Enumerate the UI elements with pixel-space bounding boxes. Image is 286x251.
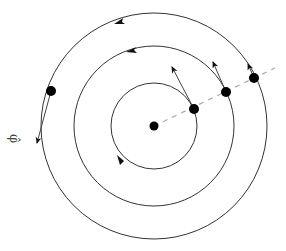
phi-hat-label: φ̂ (7, 134, 22, 143)
point-middle (221, 87, 231, 97)
point-outer (249, 73, 259, 83)
circles-diagram (0, 0, 286, 251)
inner-direction-arrow-icon (117, 155, 124, 165)
point-inner (189, 104, 199, 114)
point-left (46, 86, 56, 96)
center-point (150, 122, 159, 131)
velocity-vector-inner (172, 67, 194, 109)
